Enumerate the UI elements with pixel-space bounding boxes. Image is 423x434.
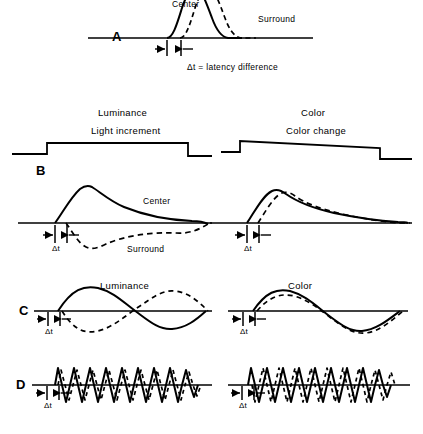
panel-b-right-dt-label: Δt xyxy=(244,245,252,253)
figure-root: A Center Surround Δt = latency differenc… xyxy=(0,0,423,434)
panel-c-right-surround-curve xyxy=(257,295,403,333)
panel-c-left-center-curve xyxy=(58,287,206,329)
panel-c-right-graphics xyxy=(228,290,408,333)
panel-c-left-graphics xyxy=(34,287,212,332)
panel-d-left-graphics xyxy=(32,368,212,402)
panel-b-right-header: Color xyxy=(301,108,325,118)
panel-c-right-dt-label: Δt xyxy=(240,328,248,336)
panel-c-right-dt-marker xyxy=(232,312,266,326)
panel-b-left-header: Luminance xyxy=(98,108,147,118)
panel-a-caption: Δt = latency difference xyxy=(187,63,278,72)
panel-b-left-stimulus-trace xyxy=(12,143,212,156)
panel-d-right-graphics xyxy=(228,368,410,402)
panel-b-right-dt-marker xyxy=(235,225,271,243)
panel-b-right-response-graphics xyxy=(210,190,412,243)
panel-c-letter: C xyxy=(19,304,28,317)
panel-b-letter: B xyxy=(36,164,45,177)
panel-b-right-surround-curve xyxy=(258,192,410,223)
panel-a-center-curve-falling xyxy=(195,0,242,38)
panel-b-stimulus-graphics xyxy=(12,141,412,159)
panel-b-right-subheader: Color change xyxy=(286,126,346,136)
panel-a-surround-label: Surround xyxy=(258,15,295,24)
panel-b-left-dt-label: Δt xyxy=(52,245,60,253)
panel-b-left-subheader: Light increment xyxy=(91,126,160,136)
panel-c-left-dt-marker xyxy=(37,312,71,326)
panel-a-dt-marker xyxy=(155,40,193,56)
panel-a-letter: A xyxy=(112,30,121,43)
panel-b-left-response-graphics xyxy=(18,186,212,248)
panel-a-center-label: Center xyxy=(172,0,199,9)
panel-a-graphics xyxy=(88,0,313,56)
panel-b-center-curve xyxy=(55,186,208,224)
panel-b-right-stimulus-trace xyxy=(221,141,412,159)
panel-d-right-dt-label: Δt xyxy=(239,402,247,410)
panel-c-left-dt-label: Δt xyxy=(45,328,53,336)
panel-a-surround-curve-falling xyxy=(208,0,256,38)
panel-c-left-header: Luminance xyxy=(100,281,149,291)
panel-b-surround-label: Surround xyxy=(127,245,164,254)
panel-b-center-label: Center xyxy=(143,197,170,206)
panel-d-letter: D xyxy=(16,378,25,391)
panel-c-right-header: Color xyxy=(288,281,312,291)
panel-d-left-dt-label: Δt xyxy=(44,402,52,410)
panel-b-right-center-curve xyxy=(247,190,408,223)
